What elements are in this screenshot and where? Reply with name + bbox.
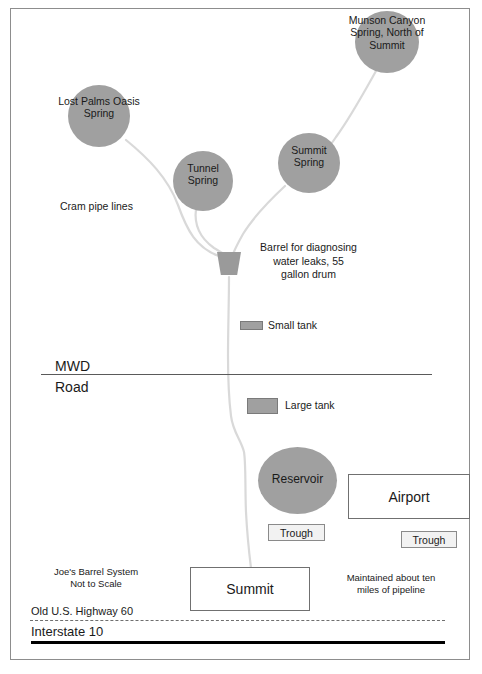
diagram-title-block: Joe's Barrel System Not to Scale bbox=[26, 566, 166, 591]
tunnel-spring-label-line-1: Tunnel bbox=[168, 162, 238, 174]
summit-box[interactable]: Summit bbox=[190, 567, 310, 611]
diagram-canvas: Lost Palms Oasis Spring Tunnel Spring Su… bbox=[0, 0, 482, 674]
munson-canyon-spring-label: Munson Canyon Spring, North of Summit bbox=[326, 14, 448, 51]
barrel-55-gallon-drum[interactable] bbox=[217, 252, 241, 275]
tunnel-spring-label-line-2: Spring bbox=[168, 174, 238, 186]
road-label: Road bbox=[55, 378, 88, 396]
road-text: Road bbox=[55, 379, 88, 395]
munson-canyon-spring-label-line-1: Munson Canyon bbox=[326, 14, 448, 26]
interstate-10-line bbox=[31, 641, 445, 644]
lost-palms-oasis-spring-label-line-2: Spring bbox=[29, 107, 169, 119]
diagram-subtitle: Not to Scale bbox=[26, 578, 166, 590]
trough-reservoir-label: Trough bbox=[280, 527, 313, 539]
airport-box[interactable]: Airport bbox=[348, 474, 470, 519]
old-highway-60-label: Old U.S. Highway 60 bbox=[31, 604, 133, 618]
summit-spring-label: Summit Spring bbox=[274, 144, 344, 169]
mwd-road-line bbox=[41, 374, 432, 375]
old-highway-60-line bbox=[30, 620, 445, 621]
barrel-annotation-line-1: Barrel for diagnosing bbox=[246, 241, 371, 255]
trough-reservoir[interactable]: Trough bbox=[268, 524, 325, 541]
summit-spring-label-line-2: Spring bbox=[274, 156, 344, 168]
munson-canyon-spring-label-line-2: Spring, North of bbox=[326, 26, 448, 38]
maintained-pipeline-annotation: Maintained about ten miles of pipeline bbox=[331, 572, 451, 597]
mwd-text: MWD bbox=[55, 358, 90, 374]
interstate-10-label: Interstate 10 bbox=[31, 624, 103, 641]
lost-palms-oasis-spring-label-line-1: Lost Palms Oasis bbox=[29, 95, 169, 107]
interstate-10-text: Interstate 10 bbox=[31, 624, 103, 639]
maintained-pipeline-line-1: Maintained about ten bbox=[331, 572, 451, 584]
lost-palms-oasis-spring-label: Lost Palms Oasis Spring bbox=[29, 95, 169, 120]
small-tank-swatch bbox=[240, 321, 263, 330]
barrel-annotation-line-3: gallon drum bbox=[246, 268, 371, 282]
small-tank-legend-text: Small tank bbox=[268, 319, 317, 331]
old-highway-60-text: Old U.S. Highway 60 bbox=[31, 605, 133, 617]
large-tank-legend-label: Large tank bbox=[285, 399, 335, 413]
cram-pipe-lines-text: Cram pipe lines bbox=[60, 200, 133, 212]
reservoir-text: Reservoir bbox=[272, 472, 323, 486]
summit-box-label: Summit bbox=[226, 581, 273, 597]
small-tank-legend-label: Small tank bbox=[268, 319, 317, 333]
trough-airport[interactable]: Trough bbox=[401, 531, 457, 548]
diagram-title: Joe's Barrel System bbox=[26, 566, 166, 578]
munson-canyon-spring-label-line-3: Summit bbox=[326, 39, 448, 51]
reservoir-label: Reservoir bbox=[258, 472, 337, 486]
trough-airport-label: Trough bbox=[413, 534, 446, 546]
mwd-label: MWD bbox=[55, 357, 90, 375]
large-tank-swatch bbox=[247, 398, 278, 414]
barrel-annotation: Barrel for diagnosing water leaks, 55 ga… bbox=[246, 241, 371, 282]
barrel-annotation-line-2: water leaks, 55 bbox=[246, 255, 371, 269]
summit-spring-label-line-1: Summit bbox=[274, 144, 344, 156]
cram-pipe-lines-annotation: Cram pipe lines bbox=[60, 200, 133, 214]
tunnel-spring-label: Tunnel Spring bbox=[168, 162, 238, 187]
airport-label: Airport bbox=[388, 489, 429, 505]
large-tank-legend-text: Large tank bbox=[285, 399, 335, 411]
maintained-pipeline-line-2: miles of pipeline bbox=[331, 584, 451, 596]
